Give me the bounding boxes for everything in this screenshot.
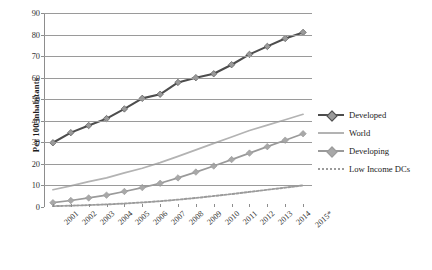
legend-swatch-icon bbox=[318, 145, 344, 157]
x-axis-tick-label: 2012 bbox=[259, 209, 277, 227]
x-axis-tick-label: 2015* bbox=[313, 209, 334, 229]
y-axis-tick-label: 90 bbox=[16, 9, 40, 18]
series-line bbox=[53, 134, 303, 203]
legend-marker-icon bbox=[326, 110, 337, 121]
legend-item[interactable]: Developing bbox=[318, 142, 430, 160]
data-point-marker bbox=[175, 175, 182, 182]
legend-label: Developed bbox=[349, 110, 386, 120]
x-axis-tick-label: 2006 bbox=[151, 209, 169, 227]
x-axis-tickmark bbox=[142, 204, 143, 207]
legend-label: Developing bbox=[349, 146, 389, 156]
data-point-marker bbox=[264, 143, 271, 150]
gridline bbox=[44, 56, 312, 57]
data-point-marker bbox=[228, 156, 235, 163]
x-axis-tickmark bbox=[178, 204, 179, 207]
x-axis-tickmark bbox=[232, 204, 233, 207]
gridline bbox=[44, 99, 312, 100]
y-axis-tickmark bbox=[41, 142, 44, 143]
y-axis-tickmark bbox=[41, 99, 44, 100]
x-axis-tick-label: 2014 bbox=[294, 209, 312, 227]
data-point-marker bbox=[103, 192, 110, 199]
y-axis-tick-label: 10 bbox=[16, 181, 40, 190]
x-axis-tick-label: 2008 bbox=[187, 209, 205, 227]
legend-item[interactable]: Developed bbox=[318, 106, 430, 124]
data-point-marker bbox=[264, 43, 271, 50]
data-point-marker bbox=[85, 195, 92, 202]
x-axis-tick-label: 2005 bbox=[134, 209, 152, 227]
legend-swatch-icon bbox=[318, 127, 344, 139]
legend-item[interactable]: World bbox=[318, 124, 430, 142]
data-point-marker bbox=[85, 122, 92, 129]
x-axis-tickmark bbox=[285, 204, 286, 207]
gridline bbox=[44, 142, 312, 143]
data-point-marker bbox=[282, 35, 289, 42]
gridline bbox=[44, 164, 312, 165]
x-axis-tickmark bbox=[214, 204, 215, 207]
x-axis-tick-label: 2010 bbox=[223, 209, 241, 227]
y-axis-tick-label: 50 bbox=[16, 95, 40, 104]
x-axis-tick-label: 2009 bbox=[205, 209, 223, 227]
y-axis-tick-label: 80 bbox=[16, 30, 40, 39]
data-point-marker bbox=[193, 169, 200, 176]
data-point-marker bbox=[121, 188, 128, 195]
x-axis-tickmark bbox=[71, 204, 72, 207]
y-axis-tickmark bbox=[41, 78, 44, 79]
y-axis-tickmark bbox=[41, 35, 44, 36]
gridline bbox=[44, 35, 312, 36]
x-axis-tick-label: 2007 bbox=[169, 209, 187, 227]
x-axis-tickmark bbox=[196, 204, 197, 207]
chart-legend: DevelopedWorldDevelopingLow Income DCs bbox=[318, 106, 430, 178]
gridline bbox=[44, 78, 312, 79]
legend-item[interactable]: Low Income DCs bbox=[318, 160, 430, 178]
x-axis-tickmark bbox=[124, 204, 125, 207]
y-axis-tick-label: 70 bbox=[16, 52, 40, 61]
x-axis-tickmark bbox=[267, 204, 268, 207]
legend-swatch-icon bbox=[318, 163, 344, 175]
y-axis-tickmark bbox=[41, 56, 44, 57]
x-axis-tickmark bbox=[89, 204, 90, 207]
y-axis-tickmark bbox=[41, 13, 44, 14]
data-point-marker bbox=[300, 130, 307, 137]
legend-swatch-icon bbox=[318, 109, 344, 121]
legend-label: World bbox=[349, 128, 370, 138]
y-axis-tick-label: 20 bbox=[16, 159, 40, 168]
y-axis-tick-label: 30 bbox=[16, 138, 40, 147]
x-axis-tickmark bbox=[160, 204, 161, 207]
x-axis-tick-label: 2002 bbox=[80, 209, 98, 227]
gridline bbox=[44, 185, 312, 186]
data-point-marker bbox=[246, 150, 253, 157]
gridline bbox=[44, 13, 312, 14]
gridline bbox=[44, 121, 312, 122]
x-axis-tick-label: 2013 bbox=[277, 209, 295, 227]
figure-caption bbox=[22, 261, 422, 270]
x-axis-tick-label: 2001 bbox=[62, 209, 80, 227]
x-axis-tickmark bbox=[249, 204, 250, 207]
y-axis-tick-labels: 0102030405060708090 bbox=[16, 0, 40, 270]
x-axis-tick-label: 2003 bbox=[98, 209, 116, 227]
x-axis-tick-label: 2004 bbox=[116, 209, 134, 227]
y-axis-tickmark bbox=[41, 121, 44, 122]
plot-area bbox=[44, 13, 312, 207]
y-axis-tickmark bbox=[41, 164, 44, 165]
x-axis-tick-labels: 2001200220032004200520062007200820092010… bbox=[44, 207, 312, 249]
legend-marker-icon bbox=[326, 146, 337, 157]
y-axis-tick-label: 0 bbox=[16, 203, 40, 212]
y-axis-tick-label: 40 bbox=[16, 116, 40, 125]
y-axis-tick-label: 60 bbox=[16, 73, 40, 82]
legend-label: Low Income DCs bbox=[349, 164, 410, 174]
data-point-marker bbox=[68, 197, 75, 204]
series-layer bbox=[44, 13, 312, 207]
x-axis-tick-label: 2011 bbox=[241, 209, 259, 226]
chart-figure: Per 100 inhabitants 0102030405060708090 … bbox=[0, 0, 432, 270]
y-axis-tickmark bbox=[41, 185, 44, 186]
x-axis-tickmark bbox=[107, 204, 108, 207]
x-axis-tickmark bbox=[53, 204, 54, 207]
x-axis-tickmark bbox=[303, 204, 304, 207]
